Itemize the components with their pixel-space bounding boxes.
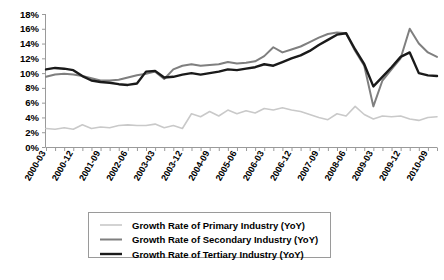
y-tick-label: 4% bbox=[25, 112, 39, 123]
legend-label-1: Growth Rate of Secondary Industry (YoY) bbox=[132, 234, 318, 245]
x-axis-labels: 2000-032000-122001-092002-062003-032003-… bbox=[23, 149, 430, 183]
x-tick-label: 2001-09 bbox=[77, 149, 102, 183]
x-tick-label: 2003-12 bbox=[159, 149, 184, 183]
y-tick-label: 10% bbox=[20, 68, 40, 79]
legend-label-2: Growth Rate of Tertiary Industry (YoY) bbox=[132, 249, 304, 260]
x-tick-label: 2002-06 bbox=[104, 149, 129, 183]
y-tick-label: 2% bbox=[25, 127, 39, 138]
y-tick-label: 6% bbox=[25, 97, 39, 108]
y-tick-label: 12% bbox=[20, 53, 40, 64]
x-tick-label: 2004-09 bbox=[186, 149, 211, 183]
y-axis-ticks bbox=[42, 15, 46, 148]
chart-legend: Growth Rate of Primary Industry (YoY)Gro… bbox=[89, 213, 331, 260]
y-tick-label: 8% bbox=[25, 82, 39, 93]
x-tick-label: 2003-03 bbox=[132, 149, 157, 183]
y-tick-label: 14% bbox=[20, 38, 40, 49]
x-tick-label: 2000-12 bbox=[50, 149, 75, 183]
x-tick-label: 2005-06 bbox=[214, 149, 239, 183]
x-tick-label: 2008-06 bbox=[323, 149, 348, 183]
series-line-0 bbox=[46, 106, 437, 129]
y-tick-label: 16% bbox=[20, 23, 40, 34]
x-axis-ticks bbox=[47, 148, 438, 152]
x-tick-label: 2006-12 bbox=[268, 149, 293, 183]
line-chart: 0%2%4%6%8%10%12%14%16%18% 2000-032000-12… bbox=[0, 0, 444, 280]
x-tick-label: 2009-03 bbox=[350, 149, 375, 183]
x-tick-label: 2010-09 bbox=[404, 149, 429, 183]
legend-label-0: Growth Rate of Primary Industry (YoY) bbox=[132, 220, 305, 231]
y-axis-labels: 0%2%4%6%8%10%12%14%16%18% bbox=[20, 9, 40, 153]
x-tick-label: 2006-03 bbox=[241, 149, 266, 183]
series-lines bbox=[46, 29, 437, 129]
x-tick-label: 2007-09 bbox=[295, 149, 320, 183]
series-line-1 bbox=[46, 29, 437, 107]
x-tick-label: 2009-12 bbox=[377, 149, 402, 183]
y-tick-label: 18% bbox=[20, 9, 40, 20]
x-tick-label: 2000-03 bbox=[23, 149, 48, 183]
chart-canvas: 0%2%4%6%8%10%12%14%16%18% 2000-032000-12… bbox=[0, 0, 444, 280]
series-line-2 bbox=[46, 33, 437, 86]
